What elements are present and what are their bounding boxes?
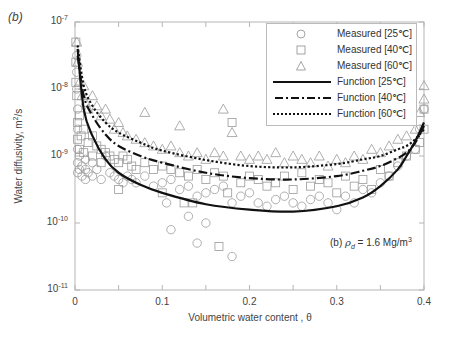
legend-label: Function [25℃] [337,76,406,87]
legend-item-function-25: Function [25℃] [267,74,416,90]
legend-item-measured-60: Measured [60℃] [267,58,416,74]
y-tick-label: 10-7 [28,14,68,26]
legend-label: Function [40℃] [337,92,406,103]
legend-label: Measured [40℃] [337,44,412,55]
legend-label: Measured [25℃] [337,28,412,39]
annotation-sup: 3 [408,236,412,243]
annotation-value: = 1.6 Mg/m [355,237,408,248]
legend-item-measured-40: Measured [40℃] [267,42,416,58]
legend-label: Function [60℃] [337,108,406,119]
triangle-marker-icon [271,58,331,74]
density-annotation: (b) ρd = 1.6 Mg/m3 [330,236,412,250]
x-tick-label: 0 [60,296,90,307]
solid-line-icon [271,74,331,90]
y-tick-label: 10-10 [28,215,68,227]
x-tick-label: 0.4 [409,296,439,307]
square-marker-icon [271,42,331,58]
y-tick-label: 10-9 [28,148,68,160]
panel-label: (b) [8,10,23,24]
legend: Measured [25℃] Measured [40℃] Measured [… [266,23,417,126]
y-axis-label-text: Water diffusivity, m [13,120,24,203]
x-tick-label: 0.3 [322,296,352,307]
x-tick-label: 0.2 [235,296,265,307]
x-tick-label: 0.1 [147,296,177,307]
legend-label: Measured [60℃] [337,60,412,71]
circle-marker-icon [271,26,331,42]
y-tick-label: 10-11 [28,282,68,294]
legend-item-measured-25: Measured [25℃] [267,26,416,42]
x-axis-label: Volumetric water content , θ [150,312,350,323]
annotation-prefix: (b) [330,237,345,248]
y-axis-label-sup: 2 [12,117,19,121]
dash-dot-line-icon [271,90,331,106]
legend-item-function-40: Function [40℃] [267,90,416,106]
legend-item-function-60: Function [60℃] [267,106,416,122]
y-axis-label: Water diffusivity, m2/s [12,76,24,236]
y-axis-label-tail: /s [13,109,24,117]
y-tick-label: 10-8 [28,81,68,93]
dotted-line-icon [271,106,331,122]
